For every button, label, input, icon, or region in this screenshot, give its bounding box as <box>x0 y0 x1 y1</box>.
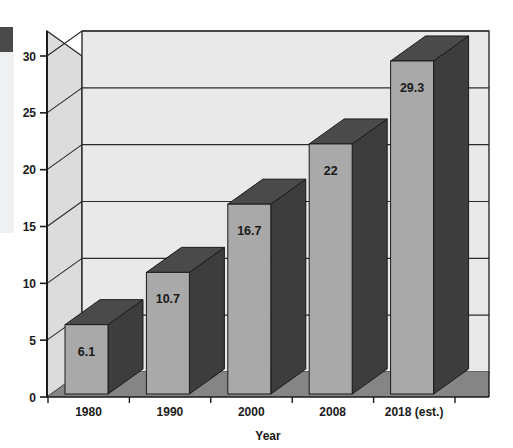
bar-column <box>228 179 306 394</box>
y-axis-tick-label: 30 <box>23 50 37 64</box>
page-margin-block <box>0 27 13 52</box>
bar-column <box>309 119 387 394</box>
x-axis-category-label: 2000 <box>238 405 265 419</box>
bar-front-face <box>309 144 352 394</box>
bar-front-face <box>391 61 434 394</box>
bar-front-face <box>65 325 108 394</box>
x-axis-title: Year <box>255 429 281 443</box>
bar-side-face <box>189 247 224 394</box>
bar-side-face <box>352 119 387 394</box>
bar-value-label: 29.3 <box>400 81 424 95</box>
page-margin-strip <box>0 50 14 233</box>
bar-side-face <box>434 36 469 394</box>
x-axis-category-label: 1990 <box>157 405 184 419</box>
bar-side-face <box>271 179 306 394</box>
y-axis-tick-label: 15 <box>23 220 37 234</box>
y-axis-tick-label: 5 <box>29 334 36 348</box>
x-axis-category-label: 2018 (est.) <box>385 405 444 419</box>
bar-value-label: 16.7 <box>237 224 261 238</box>
y-axis-tick-label: 25 <box>23 106 37 120</box>
x-axis-category-label: 1980 <box>75 405 102 419</box>
bar-value-label: 22 <box>324 164 338 178</box>
bar-front-face <box>146 272 189 394</box>
y-axis-tick-label: 10 <box>23 277 37 291</box>
bar-chart-figure: 051015202530 19801990200020082018 (est.)… <box>0 0 513 448</box>
x-axis-category-label: 2008 <box>319 405 346 419</box>
y-axis-tick-label: 20 <box>23 163 37 177</box>
y-axis-tick-label: 0 <box>29 391 36 405</box>
bar-value-label: 10.7 <box>156 292 180 306</box>
bar-column <box>146 247 224 394</box>
bar-value-label: 6.1 <box>78 345 95 359</box>
